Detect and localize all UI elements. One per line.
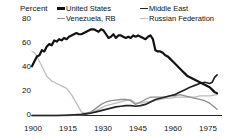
plot-area — [0, 0, 230, 140]
series-line-russian-federation — [32, 51, 217, 113]
series-line-middle-east — [32, 75, 217, 116]
series-layer — [32, 29, 217, 115]
series-line-united-states — [32, 29, 217, 93]
chart-container: Percent 80 60 40 20 0 1900 1915 1930 194… — [0, 0, 230, 140]
